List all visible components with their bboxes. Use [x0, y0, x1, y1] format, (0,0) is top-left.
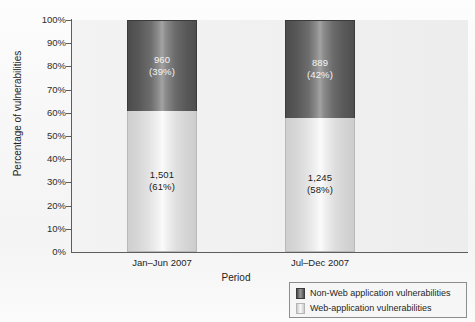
bar-segment-label: 960 (39%)	[149, 54, 175, 78]
chart-legend: Non-Web application vulnerabilities Web-…	[289, 282, 467, 318]
legend-item-web[interactable]: Web-application vulnerabilities	[296, 301, 461, 315]
chart-figure: 100% 90% 80% 70% 60% 50% 40% 30%	[0, 0, 475, 322]
plot-area: 960 (39%) 1,501 (61%) 889 (42%) 1	[72, 20, 468, 252]
y-tick-label: 10%	[6, 224, 66, 234]
y-tick-label: 0%	[6, 247, 66, 257]
x-tick-label-jan-jun-2007: Jan–Jun 2007	[92, 257, 232, 268]
bar-segment-label: 889 (42%)	[307, 57, 333, 81]
bar-group-jan-jun-2007[interactable]: 960 (39%) 1,501 (61%)	[127, 20, 197, 252]
x-axis-title: Period	[196, 272, 276, 283]
y-axis-title: Percentage of vulnerabilities	[12, 14, 23, 214]
legend-swatch-icon-web	[296, 303, 305, 314]
legend-label: Non-Web application vulnerabilities	[310, 288, 450, 298]
legend-swatch-icon-non-web	[296, 288, 305, 299]
bar-segment-web-1[interactable]: 1,501 (61%)	[127, 111, 197, 253]
bar-segment-label: 1,501 (61%)	[149, 169, 175, 193]
bar-segment-non-web-1[interactable]: 960 (39%)	[127, 20, 197, 111]
x-axis-line	[71, 252, 468, 253]
bar-segment-web-2[interactable]: 1,245 (58%)	[285, 118, 355, 253]
legend-item-non-web[interactable]: Non-Web application vulnerabilities	[296, 286, 461, 300]
bar-segment-label: 1,245 (58%)	[307, 172, 333, 196]
bar-segment-non-web-2[interactable]: 889 (42%)	[285, 20, 355, 118]
legend-label: Web-application vulnerabilities	[310, 303, 431, 313]
bar-group-jul-dec-2007[interactable]: 889 (42%) 1,245 (58%)	[285, 20, 355, 252]
x-tick-label-jul-dec-2007: Jul–Dec 2007	[250, 257, 390, 268]
